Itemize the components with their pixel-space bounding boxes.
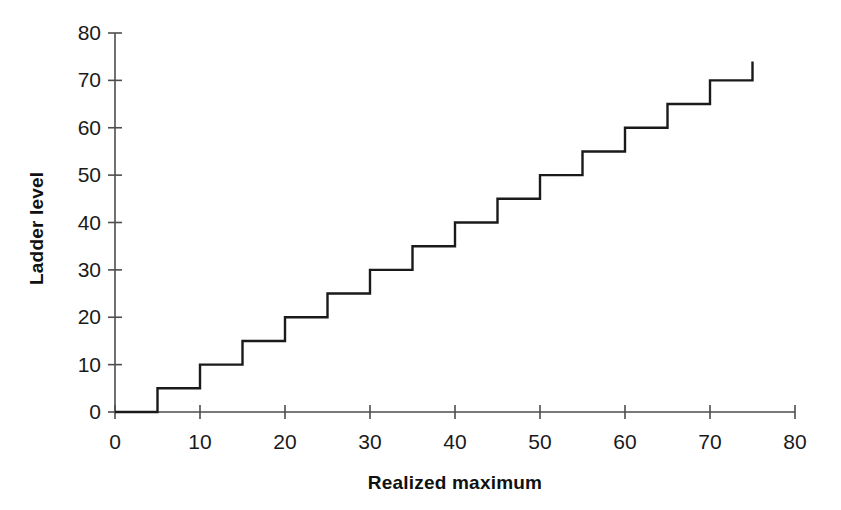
y-tick-label: 60: [57, 116, 101, 140]
y-tick-label: 0: [57, 400, 101, 424]
y-tick-label: 10: [57, 353, 101, 377]
x-tick-label: 10: [188, 430, 211, 454]
x-tick-label: 80: [783, 430, 806, 454]
y-tick-label: 20: [57, 305, 101, 329]
x-tick-label: 20: [273, 430, 296, 454]
y-tick-label: 50: [57, 163, 101, 187]
y-tick-label: 80: [57, 21, 101, 45]
x-tick-label: 40: [443, 430, 466, 454]
x-tick-label: 50: [528, 430, 551, 454]
x-tick-label: 70: [698, 430, 721, 454]
y-tick-label: 30: [57, 258, 101, 282]
x-axis-title: Realized maximum: [305, 472, 605, 494]
y-axis-title: Ladder level: [26, 171, 48, 284]
x-tick-label: 30: [358, 430, 381, 454]
x-tick-label: 60: [613, 430, 636, 454]
x-tick-label: 0: [109, 430, 121, 454]
step-series-line: [115, 61, 753, 412]
y-tick-label: 70: [57, 68, 101, 92]
axis-tick-marks: [108, 33, 795, 419]
chart-container: 01020304050607080 01020304050607080 Ladd…: [0, 0, 841, 510]
y-tick-label: 40: [57, 211, 101, 235]
